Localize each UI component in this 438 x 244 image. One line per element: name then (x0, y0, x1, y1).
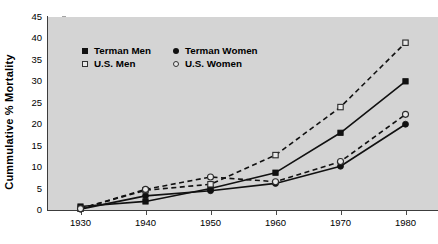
legend-label: Terman Women (185, 46, 258, 56)
series-terman-men (78, 79, 408, 210)
data-point-marker (208, 174, 214, 180)
x-tick-mark (406, 211, 407, 215)
data-point-marker (403, 111, 409, 117)
open-circle-icon (173, 61, 179, 67)
open-square-icon (82, 61, 88, 67)
series-line (81, 124, 406, 209)
x-tick-mark (276, 211, 277, 215)
x-axis-line (47, 210, 438, 211)
data-point-marker (208, 182, 213, 187)
data-point-marker (338, 104, 343, 109)
x-tick-label: 1950 (188, 218, 234, 228)
data-point-marker (143, 199, 148, 204)
x-tick-label: 1930 (58, 218, 104, 228)
data-point-marker (338, 159, 344, 165)
x-tick-label: 1940 (123, 218, 169, 228)
legend-entry-u-s-men: U.S. Men (82, 59, 151, 69)
x-tick-label: 1980 (383, 218, 429, 228)
data-point-marker (143, 186, 149, 192)
series-u-s-women (78, 111, 409, 211)
data-point-marker (273, 152, 278, 157)
x-tick-mark (146, 211, 147, 215)
data-point-marker (403, 40, 408, 45)
filled-square-icon (82, 48, 88, 54)
x-tick-mark (341, 211, 342, 215)
data-point-marker (208, 188, 214, 194)
legend-label: Terman Men (94, 46, 151, 56)
legend-entry-terman-women: Terman Women (173, 46, 258, 56)
legend-entry-u-s-women: U.S. Women (173, 59, 258, 69)
x-tick-label: 1970 (318, 218, 364, 228)
series-line (81, 114, 406, 208)
data-point-marker (78, 206, 84, 212)
filled-circle-icon (173, 48, 179, 54)
series-terman-women (78, 121, 409, 212)
data-point-marker (403, 79, 408, 84)
legend-label: U.S. Men (94, 59, 135, 69)
x-tick-label: 1960 (253, 218, 299, 228)
data-point-marker (338, 130, 343, 135)
data-point-marker (403, 121, 409, 127)
data-point-marker (143, 193, 149, 199)
data-point-marker (273, 179, 279, 185)
chart-legend: Terman MenTerman WomenU.S. MenU.S. Women (82, 46, 258, 69)
mortality-line-chart: Cummulative % Mortality 0510152025303540… (0, 0, 438, 244)
x-tick-mark (211, 211, 212, 215)
legend-label: U.S. Women (185, 59, 242, 69)
legend-entry-terman-men: Terman Men (82, 46, 151, 56)
data-point-marker (273, 170, 278, 175)
